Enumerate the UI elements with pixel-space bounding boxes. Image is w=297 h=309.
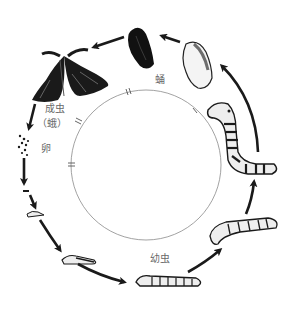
tiny-larva-icon bbox=[27, 211, 44, 217]
eggs-icon bbox=[18, 135, 29, 156]
pupa-label: 蛹 bbox=[155, 75, 165, 85]
egg-label: 卵 bbox=[41, 144, 51, 154]
pupa-icon bbox=[128, 28, 154, 69]
small-larva-icon bbox=[62, 256, 96, 265]
cocoon-icon bbox=[183, 42, 212, 88]
silkworm-life-cycle-diagram: 成虫 （蛾） 卵 幼虫 蛹 bbox=[0, 0, 297, 309]
large-larva-icon bbox=[208, 103, 277, 174]
arrow-cocoon-to-pupa bbox=[162, 36, 180, 42]
arrow-medium-to-large bbox=[246, 182, 254, 214]
arrow-tiny-to-small bbox=[40, 220, 60, 250]
arrow-bottom-to-medium bbox=[188, 250, 220, 272]
arrow-hatchling-to-tiny bbox=[30, 195, 35, 207]
moth-icon bbox=[32, 50, 108, 102]
adult-label: 成虫 bbox=[45, 104, 65, 114]
arrow-moth-to-egg bbox=[29, 104, 35, 128]
arrow-pupa-to-moth bbox=[94, 37, 124, 47]
bottom-larva-icon bbox=[136, 276, 201, 286]
medium-larva-icon bbox=[210, 218, 277, 244]
larva-label: 幼虫 bbox=[150, 254, 170, 264]
arrow-small-to-bottom bbox=[78, 264, 124, 282]
diagram-canvas bbox=[0, 0, 297, 309]
center-circle bbox=[68, 88, 221, 240]
moth-sub-label: （蛾） bbox=[37, 119, 67, 129]
